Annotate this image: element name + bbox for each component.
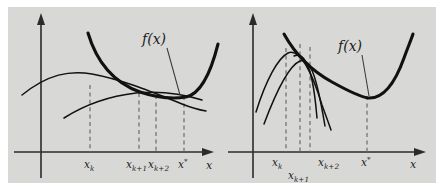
panel-background bbox=[222, 7, 436, 183]
tick-sub-xk1: k+1 bbox=[132, 164, 147, 173]
quadratic-approximation-panel: f(x) x k x k+1 x k+2 x * x bbox=[222, 0, 444, 189]
secant-approximation-panel: f(x) x k x k+1 x k+2 x * x bbox=[0, 0, 222, 189]
tick-sub-xk2: k+2 bbox=[324, 162, 339, 171]
tick-sub-xk: k bbox=[90, 164, 94, 173]
tick-sub-xstar: * bbox=[367, 155, 371, 164]
tick-sub-xk1: k+1 bbox=[294, 175, 309, 184]
x-axis-label: x bbox=[206, 159, 213, 172]
tick-sub-xk2: k+2 bbox=[154, 164, 169, 173]
function-label: f(x) bbox=[337, 38, 362, 54]
figure-container: f(x) x k x k+1 x k+2 x * x bbox=[0, 0, 444, 189]
function-label: f(x) bbox=[141, 31, 166, 47]
tick-sub-xk: k bbox=[278, 162, 282, 171]
tick-sub-xstar: * bbox=[184, 157, 188, 166]
x-axis-label: x bbox=[410, 158, 417, 171]
